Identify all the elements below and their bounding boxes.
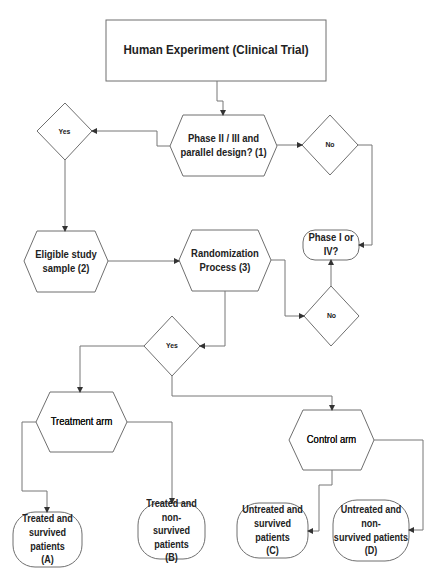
edge-no-to-phase-i-iv [358,145,372,245]
outcome-c-label: Untreated and survived patients (C) [236,503,309,558]
eligible-label: Eligible study sample (2) [30,231,102,292]
edge-yes-to-control [172,376,332,410]
outcome-b-label: Treated and non- survived patients (B) [137,503,207,559]
treatment-arm-label: Treatment arm [42,392,120,452]
edge-randomization-to-yes [200,291,225,346]
edge-control-to-c [308,470,332,531]
edge-yes-to-treatment [80,346,144,392]
edge-title-to-phase [217,81,223,115]
edge-phase-to-yes [92,131,170,146]
no-bottom-label: No [308,286,355,346]
randomization-label: Randomization Process (3) [185,230,264,291]
outcome-d-label: Untreated and non- survived patients (D) [332,500,409,561]
edge-randomization-to-no [271,260,304,316]
yes-bottom-label: Yes [148,316,196,376]
diagram-title: Human Experiment (Clinical Trial) [121,20,310,81]
yes-top-label: Yes [41,103,88,160]
control-arm-label: Control arm [295,410,368,470]
phase-i-iv-label: Phase I or IV? [303,230,360,260]
phase-question-label: Phase II / III and parallel design? (1) [177,115,269,176]
edge-treatment-to-b [127,422,172,503]
outcome-a-label: Treated and survived patients (A) [12,512,83,567]
no-top-label: No [306,115,354,175]
